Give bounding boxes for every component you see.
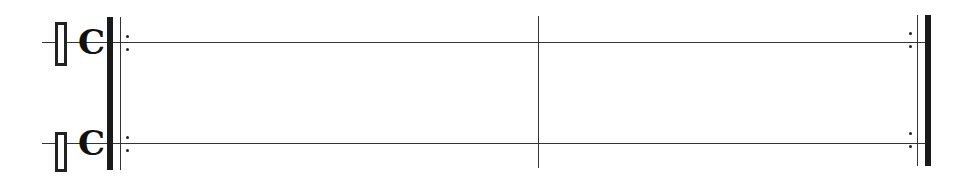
- thick-barline: [107, 17, 113, 170]
- repeat-dot: [909, 45, 912, 48]
- time-signature-common: C: [78, 25, 105, 59]
- staff-line: [42, 42, 926, 43]
- repeat-dot: [126, 35, 129, 38]
- repeat-dot: [909, 32, 912, 35]
- staff-line: [42, 143, 926, 144]
- repeat-dot: [126, 48, 129, 51]
- time-signature-common: C: [78, 126, 105, 160]
- thick-barline: [925, 15, 931, 166]
- repeat-dot: [909, 145, 912, 148]
- music-score: C C: [0, 0, 957, 185]
- middle-barline: [538, 16, 539, 168]
- repeat-dot: [909, 132, 912, 135]
- repeat-dot: [126, 136, 129, 139]
- thin-barline: [917, 15, 918, 166]
- repeat-dot: [126, 149, 129, 152]
- thin-barline: [120, 17, 121, 170]
- percussion-clef-icon: [55, 22, 67, 66]
- percussion-clef-icon: [55, 132, 67, 172]
